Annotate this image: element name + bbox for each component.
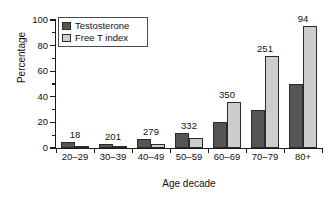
bar-group-count-label: 332 [169,121,209,131]
legend-item-testosterone[interactable]: Testosterone [62,20,144,32]
bar-free-t-index[interactable] [227,102,241,148]
bar-free-t-index[interactable] [265,56,279,148]
legend-label-free-t-index: Free T index [75,33,128,43]
bar-group-count-label: 201 [93,132,133,142]
y-tick-label: 80 [18,41,48,51]
x-axis-category-label: 80+ [281,152,325,162]
bar-free-t-index[interactable] [113,146,127,148]
legend-swatch-icon-testosterone [62,22,71,30]
bar-free-t-index[interactable] [303,26,317,148]
bar-group-count-label: 94 [283,14,323,24]
bar-group-count-label: 18 [55,130,95,140]
x-axis-title: Age decade [56,178,322,189]
y-tick-major [50,122,55,123]
bar-group [251,20,279,148]
bar-group-count-label: 279 [131,127,171,137]
y-tick-label: 40 [18,92,48,102]
bar-group-count-label: 251 [245,44,285,54]
y-tick-minor [52,83,55,84]
y-tick-major [50,71,55,72]
y-tick-label: 20 [18,117,48,127]
y-tick-major [50,45,55,46]
bar-free-t-index[interactable] [75,146,89,148]
y-tick-minor [52,32,55,33]
figure-canvas: Percentage Age decade 020406080100 20–29… [0,0,329,198]
bar-testosterone[interactable] [175,133,189,148]
bar-testosterone[interactable] [99,144,113,148]
legend-label-testosterone: Testosterone [75,21,129,31]
bar-group [289,20,317,148]
y-tick-minor [52,58,55,59]
y-tick-label: 0 [18,143,48,153]
cutoff-caption-strip [0,0,329,8]
bar-testosterone[interactable] [213,122,227,148]
y-tick-major [50,147,55,148]
y-tick-major [50,96,55,97]
bar-free-t-index[interactable] [151,144,165,148]
y-tick-label: 60 [18,66,48,76]
y-tick-major [50,19,55,20]
legend-swatch-icon-free-t-index [62,34,71,42]
bar-group [213,20,241,148]
bar-testosterone[interactable] [289,84,303,148]
bar-group-count-label: 350 [207,90,247,100]
bar-testosterone[interactable] [251,110,265,148]
bar-testosterone[interactable] [137,139,151,148]
bar-free-t-index[interactable] [189,138,203,148]
chart-legend[interactable]: Testosterone Free T index [58,17,148,47]
bar-testosterone[interactable] [61,142,75,148]
y-tick-label: 100 [18,15,48,25]
y-tick-minor [52,109,55,110]
legend-item-free-t-index[interactable]: Free T index [62,32,144,44]
